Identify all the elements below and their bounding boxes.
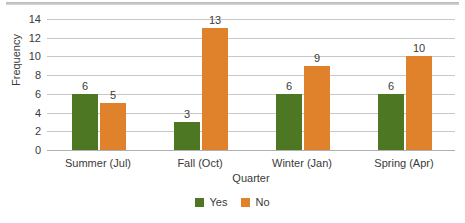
y-axis-tick-label: 0	[11, 145, 41, 156]
bar-yes-winter[interactable]: 6	[276, 94, 302, 150]
bar-value-label: 13	[209, 14, 221, 26]
legend-label: Yes	[209, 196, 227, 208]
bar-value-label: 3	[184, 108, 190, 120]
bar-value-label: 6	[286, 80, 292, 92]
x-axis-title: Quarter	[47, 172, 455, 184]
axis-baseline	[47, 150, 455, 151]
y-axis-tick-label: 2	[11, 126, 41, 137]
bar-group: 313	[149, 19, 251, 150]
bar-group: 69	[251, 19, 353, 150]
bar-groups: 6531369610	[47, 19, 455, 150]
chart-legend: YesNo	[0, 196, 465, 208]
legend-item-no[interactable]: No	[241, 196, 269, 208]
legend-label: No	[255, 196, 269, 208]
bar-yes-fall[interactable]: 3	[174, 122, 200, 150]
x-axis-tick-label: Fall (Oct)	[149, 155, 251, 171]
bar-yes-spring[interactable]: 6	[378, 94, 404, 150]
x-axis-tick-label: Summer (Jul)	[47, 155, 149, 171]
x-axis-tick-label: Spring (Apr)	[353, 155, 455, 171]
bar-no-fall[interactable]: 13	[202, 28, 228, 150]
bar-group: 610	[353, 19, 455, 150]
top-decorative-band	[6, 2, 459, 5]
bar-chart-figure: 02468101214 Frequency 6531369610 Summer …	[0, 0, 465, 223]
bar-value-label: 5	[110, 89, 116, 101]
legend-item-yes[interactable]: Yes	[195, 196, 227, 208]
bar-value-label: 6	[388, 80, 394, 92]
bar-yes-summer[interactable]: 6	[72, 94, 98, 150]
plot-area: 6531369610	[47, 19, 455, 150]
y-axis-ticks: 02468101214	[0, 19, 45, 150]
bar-no-spring[interactable]: 10	[406, 56, 432, 150]
legend-swatch-icon	[241, 198, 250, 207]
bar-value-label: 9	[314, 52, 320, 64]
bar-no-summer[interactable]: 5	[100, 103, 126, 150]
y-axis-title: Frequency	[10, 15, 22, 105]
x-axis-tick-label: Winter (Jan)	[251, 155, 353, 171]
legend-swatch-icon	[195, 198, 204, 207]
bar-group: 65	[47, 19, 149, 150]
bar-value-label: 6	[82, 80, 88, 92]
y-axis-tick-label: 4	[11, 107, 41, 118]
x-axis-tick-labels: Summer (Jul)Fall (Oct)Winter (Jan)Spring…	[47, 155, 455, 171]
bar-value-label: 10	[413, 42, 425, 54]
bar-no-winter[interactable]: 9	[304, 66, 330, 150]
